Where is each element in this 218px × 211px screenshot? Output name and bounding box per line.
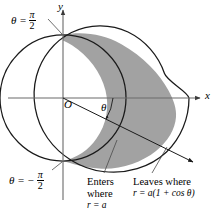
label-theta-negative-pi-over-2: θ = − π 2: [9, 170, 44, 191]
fraction-numerator: π: [29, 10, 36, 20]
annotation-enters-equation: r = a: [87, 200, 114, 211]
fraction-denominator: 2: [37, 181, 44, 191]
x-axis-label: x: [205, 90, 210, 102]
annotation-enters-line2: where: [87, 188, 114, 200]
leader-theta-top: [48, 19, 62, 34]
origin-label: O: [64, 99, 72, 111]
annotation-leaves: Leaves where r = a(1 + cos θ): [133, 176, 195, 198]
fraction-pi-over-2-bottom: π 2: [37, 170, 44, 191]
polar-region-figure: θ = π 2 θ = − π 2 O x y θ Enters where r…: [0, 0, 218, 210]
fraction-numerator: π: [37, 170, 44, 180]
annotation-enters: Enters where r = a: [87, 176, 114, 210]
annotation-leaves-equation: r = a(1 + cos θ): [133, 188, 195, 199]
fraction-pi-over-2-top: π 2: [29, 10, 36, 31]
annotation-enters-line1: Enters: [87, 176, 114, 188]
label-theta-bottom-lhs: θ = −: [9, 175, 35, 187]
y-axis-label: y: [58, 1, 63, 13]
theta-angle-label: θ: [101, 102, 106, 114]
leader-theta-bottom: [52, 162, 62, 170]
label-theta-top-lhs: θ =: [11, 15, 27, 27]
shaded-region: [63, 33, 176, 168]
fraction-denominator: 2: [29, 21, 36, 31]
annotation-leaves-line1: Leaves where: [133, 176, 195, 188]
label-theta-pi-over-2: θ = π 2: [11, 10, 36, 31]
